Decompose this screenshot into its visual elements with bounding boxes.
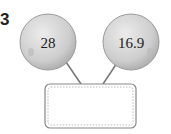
right-ball: 16.9 bbox=[103, 14, 159, 70]
answer-box[interactable] bbox=[45, 84, 136, 128]
right-connector-line bbox=[103, 63, 117, 84]
right-ball-value: 16.9 bbox=[118, 35, 144, 51]
left-ball-value: 28 bbox=[41, 35, 56, 51]
diagram: 28 16.9 bbox=[0, 0, 171, 134]
left-ball: 28 bbox=[20, 14, 76, 70]
left-connector-line bbox=[66, 62, 81, 84]
